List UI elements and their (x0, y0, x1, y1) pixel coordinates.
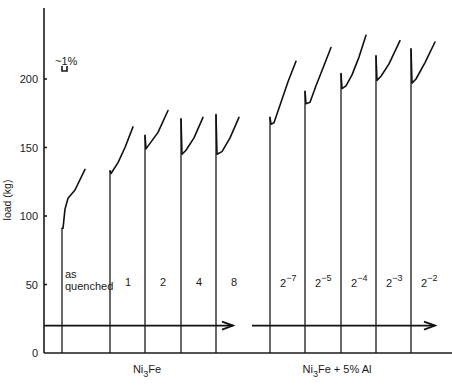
condition-label: 2−7 (280, 273, 296, 289)
y-tick-label: 50 (26, 279, 38, 291)
condition-label: 8 (231, 276, 237, 288)
load-curve (145, 111, 168, 149)
y-tick-label: 100 (20, 210, 38, 222)
stress-strain-curves (62, 35, 435, 353)
condition-labels: asquenched1248Ni3Fe2−72−52−42−32−2Ni3Fe … (65, 268, 437, 379)
load-curve (270, 61, 296, 124)
load-curve (181, 117, 203, 154)
group-label: Ni3Fe + 5% Al (303, 363, 372, 379)
scale-annotation-label: ~1% (55, 55, 78, 67)
condition-label: quenched (65, 280, 113, 292)
load-curve (62, 169, 85, 228)
condition-label: 2−3 (386, 273, 402, 289)
condition-label: 2−4 (351, 273, 367, 289)
condition-label: as (65, 268, 77, 280)
load-curve (411, 42, 435, 83)
condition-label: 1 (125, 276, 131, 288)
condition-label: 2−5 (315, 273, 331, 289)
group-label: Ni3Fe (133, 363, 161, 379)
load-curve (110, 127, 133, 174)
y-axis: 050100150200load (kg) (1, 8, 47, 359)
y-tick-label: 200 (20, 73, 38, 85)
y-axis-label: load (kg) (1, 180, 13, 221)
y-tick-label: 0 (32, 347, 38, 359)
load-curve (376, 41, 400, 81)
y-tick-label: 150 (20, 142, 38, 154)
load-curve (216, 115, 239, 155)
scale-annotation: ~1% (55, 55, 78, 71)
condition-label: 4 (196, 276, 202, 288)
condition-label: 2 (160, 276, 166, 288)
load-curve (341, 35, 366, 88)
load-curve (305, 48, 331, 104)
condition-label: 2−2 (421, 273, 437, 289)
load-vs-strain-chart: 050100150200load (kg) asquenched1248Ni3F… (0, 0, 452, 385)
